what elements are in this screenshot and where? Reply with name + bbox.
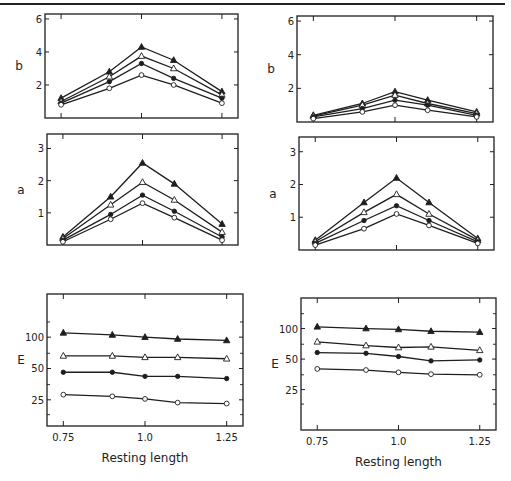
x-tick-label: 1.25 (469, 436, 491, 447)
plot-frame (301, 298, 496, 430)
filled-circle-marker-icon (427, 218, 431, 222)
series-line-open-circle (61, 75, 222, 105)
open-circle-marker-icon (394, 212, 399, 217)
chart-panel-middle-left: 123a (17, 134, 238, 245)
chart-panel-middle-right: 123a (269, 137, 494, 250)
y-tick-label: 1 (38, 208, 44, 219)
open-circle-marker-icon (427, 223, 432, 228)
open-circle-marker-icon (220, 101, 225, 106)
open-circle-marker-icon (362, 226, 367, 231)
y-axis-label: a (17, 183, 24, 197)
filled-circle-marker-icon (362, 218, 366, 222)
y-tick-label: 3 (38, 143, 44, 154)
filled-circle-marker-icon (224, 376, 228, 380)
filled-circle-marker-icon (478, 358, 482, 362)
series-line-filled-triangle (63, 163, 222, 237)
filled-triangle-marker-icon (171, 180, 177, 186)
open-circle-marker-icon (139, 73, 144, 78)
open-triangle-marker-icon (314, 338, 320, 344)
open-triangle-marker-icon (107, 201, 113, 207)
filled-triangle-marker-icon (314, 323, 320, 329)
open-circle-marker-icon (171, 83, 176, 88)
open-circle-marker-icon (474, 115, 479, 120)
filled-circle-marker-icon (429, 359, 433, 363)
filled-triangle-marker-icon (60, 329, 66, 335)
filled-circle-marker-icon (107, 79, 111, 83)
open-circle-marker-icon (61, 392, 66, 397)
x-tick-label: 1.0 (137, 432, 153, 443)
open-circle-marker-icon (477, 372, 482, 377)
filled-circle-marker-icon (220, 96, 224, 100)
filled-triangle-marker-icon (361, 199, 367, 205)
open-circle-marker-icon (175, 400, 180, 405)
open-triangle-marker-icon (219, 229, 225, 235)
series-line-open-circle (315, 214, 478, 245)
open-triangle-marker-icon (393, 191, 399, 197)
figure-canvas: 246b246b123a123a0.751.01.252550100EResti… (0, 0, 511, 481)
open-circle-marker-icon (393, 103, 398, 108)
open-circle-marker-icon (313, 243, 318, 248)
filled-circle-marker-icon (175, 374, 179, 378)
open-circle-marker-icon (364, 368, 369, 373)
filled-triangle-marker-icon (426, 199, 432, 205)
filled-triangle-marker-icon (393, 174, 399, 180)
open-circle-marker-icon (311, 116, 316, 121)
y-tick-label: 25 (285, 385, 298, 396)
open-circle-marker-icon (425, 108, 430, 113)
y-tick-label: 50 (285, 354, 298, 365)
y-tick-label: 4 (36, 47, 42, 58)
y-tick-label: 2 (38, 176, 44, 187)
filled-circle-marker-icon (315, 350, 319, 354)
open-circle-marker-icon (110, 394, 115, 399)
filled-circle-marker-icon (110, 370, 114, 374)
y-tick-label: 2 (36, 80, 42, 91)
filled-circle-marker-icon (171, 76, 175, 80)
chart-panel-bottom-left: 0.751.01.252550100EResting length (17, 294, 243, 465)
open-circle-marker-icon (59, 102, 64, 107)
filled-circle-marker-icon (172, 209, 176, 213)
filled-circle-marker-icon (61, 370, 65, 374)
y-tick-label: 6 (288, 16, 294, 27)
y-tick-label: 50 (31, 363, 44, 374)
chart-panel-top-right: 246b (267, 16, 493, 122)
open-circle-marker-icon (108, 217, 113, 222)
y-tick-label: 100 (279, 324, 298, 335)
y-tick-label: 2 (290, 179, 296, 190)
open-circle-marker-icon (475, 241, 480, 246)
y-tick-label: 1 (290, 212, 296, 223)
y-tick-label: 2 (288, 83, 294, 94)
open-circle-marker-icon (220, 238, 225, 243)
open-circle-marker-icon (143, 397, 148, 402)
x-tick-label: 1.0 (391, 436, 407, 447)
open-triangle-marker-icon (139, 179, 145, 185)
filled-circle-marker-icon (364, 351, 368, 355)
open-circle-marker-icon (396, 370, 401, 375)
x-tick-label: 1.25 (216, 432, 238, 443)
y-axis-label: b (15, 59, 23, 73)
filled-circle-marker-icon (425, 103, 429, 107)
chart-panel-bottom-right: 0.751.01.252550100EResting length (271, 298, 496, 469)
y-tick-label: 4 (288, 50, 294, 61)
y-tick-label: 100 (25, 332, 44, 343)
y-axis-label: E (271, 357, 279, 371)
filled-circle-marker-icon (108, 212, 112, 216)
open-circle-marker-icon (360, 110, 365, 115)
x-tick-label: 0.75 (52, 432, 74, 443)
y-tick-label: 6 (36, 14, 42, 25)
open-circle-marker-icon (61, 239, 66, 244)
y-tick-label: 3 (290, 147, 296, 158)
filled-triangle-marker-icon (139, 159, 145, 165)
y-axis-label: b (267, 62, 275, 76)
open-circle-marker-icon (107, 86, 112, 91)
open-triangle-marker-icon (138, 53, 144, 59)
filled-circle-marker-icon (143, 374, 147, 378)
x-axis-title: Resting length (355, 455, 442, 469)
filled-circle-marker-icon (394, 204, 398, 208)
open-circle-marker-icon (172, 215, 177, 220)
open-circle-marker-icon (315, 367, 320, 372)
series-line-open-circle (63, 203, 222, 242)
y-axis-label: E (17, 353, 25, 367)
y-axis-label: a (269, 187, 276, 201)
filled-circle-marker-icon (139, 61, 143, 65)
open-circle-marker-icon (140, 201, 145, 206)
